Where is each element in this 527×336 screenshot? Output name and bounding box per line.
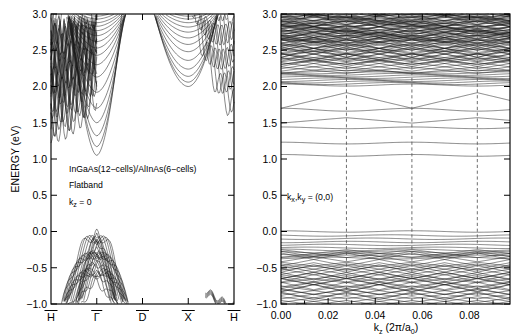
x-tick-label-3: X	[182, 311, 195, 324]
svg-text:H: H	[47, 311, 55, 323]
left-y-tick-labels: 3.02.52.01.51.00.50.0−0.5−1.0	[26, 8, 47, 310]
y-tick-label: 1.5	[262, 117, 277, 129]
right-x-tick-labels: 0.000.020.040.060.08	[271, 309, 480, 321]
miniband-curve	[281, 118, 510, 123]
right-panel: 3.02.52.01.51.00.50.0−0.5−1.0 0.000.020.…	[256, 8, 510, 336]
left-x-tick-labels: HΓDXH	[45, 311, 241, 324]
svg-text:D: D	[139, 311, 147, 323]
band-structure-figure: 3.02.52.01.51.00.50.0−0.5−1.0 HΓDXH ENER…	[0, 0, 527, 336]
left-panel: 3.02.52.01.51.00.50.0−0.5−1.0 HΓDXH ENER…	[9, 8, 241, 323]
y-tick-label: −0.5	[26, 262, 47, 274]
left-band-curves	[51, 14, 234, 304]
x-tick-label: 0.04	[365, 309, 386, 321]
miniband-curve	[281, 241, 510, 242]
y-tick-label: 1.0	[32, 153, 47, 165]
y-tick-label: −1.0	[26, 298, 47, 310]
miniband-curve	[281, 231, 510, 232]
band-curve	[81, 276, 111, 303]
right-annotation-kxky: kx,ky = (0,0)	[287, 192, 333, 204]
y-tick-label: 1.0	[262, 153, 277, 165]
svg-text:Γ: Γ	[94, 311, 100, 323]
right-band-curves	[281, 14, 510, 304]
band-curve	[225, 15, 228, 20]
left-annotation-composition: InGaAs(12−cells)/AlInAs(6−cells)	[69, 164, 197, 174]
x-tick-label: 0.00	[271, 309, 292, 321]
right-y-tick-labels: 3.02.52.01.51.00.50.0−0.5−1.0	[256, 8, 277, 310]
miniband-curve	[281, 142, 510, 144]
miniband-curve	[281, 247, 510, 248]
miniband-curve	[281, 108, 510, 111]
figure-canvas: 3.02.52.01.51.00.50.0−0.5−1.0 HΓDXH ENER…	[0, 0, 527, 336]
miniband-curve	[281, 93, 510, 109]
miniband-curve	[281, 244, 510, 245]
x-tick-label: 0.08	[459, 309, 480, 321]
y-tick-label: 0.5	[262, 189, 277, 201]
svg-text:H: H	[230, 311, 238, 323]
y-tick-label: 3.0	[32, 8, 47, 20]
miniband-curve	[281, 155, 510, 157]
y-tick-label: −0.5	[256, 262, 277, 274]
x-tick-label: 0.06	[412, 309, 433, 321]
miniband-curve	[281, 238, 510, 239]
y-tick-label: 2.5	[32, 44, 47, 56]
svg-text:X: X	[185, 311, 193, 323]
y-tick-label: 2.5	[262, 44, 277, 56]
miniband-curve	[281, 127, 510, 129]
miniband-curve	[281, 235, 510, 236]
x-tick-label-1: Γ	[91, 311, 102, 324]
x-tick-label-4: H	[228, 311, 241, 324]
y-tick-label: 0.0	[262, 225, 277, 237]
y-tick-label: 2.0	[32, 80, 47, 92]
y-tick-label: 1.5	[32, 117, 47, 129]
band-curve	[205, 290, 234, 304]
right-x-axis-label: kz (2π/a0)	[374, 321, 419, 336]
left-y-axis-label: ENERGY (eV)	[9, 126, 21, 193]
left-annotation-flatband: Flatband	[69, 180, 103, 190]
y-tick-label: 2.0	[262, 80, 277, 92]
left-x-axis-ticks	[97, 14, 189, 304]
kz-value: = 0	[77, 197, 92, 207]
y-tick-label: 0.0	[32, 225, 47, 237]
y-tick-label: 0.5	[32, 189, 47, 201]
y-tick-label: 3.0	[262, 8, 277, 20]
left-annotation-kz: kz = 0	[69, 197, 92, 209]
x-tick-label-0: H	[45, 311, 58, 324]
y-tick-label: −1.0	[256, 298, 277, 310]
x-tick-label: 0.02	[318, 309, 339, 321]
x-tick-label-2: D	[136, 311, 149, 324]
